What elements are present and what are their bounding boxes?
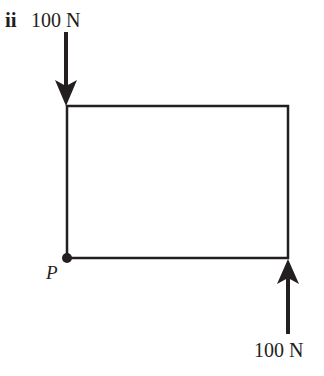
rectangle-body <box>67 106 288 258</box>
bottom-force-arrow-icon <box>277 259 299 334</box>
force-diagram <box>0 0 324 376</box>
point-p-dot <box>62 253 72 263</box>
top-force-arrow-icon <box>55 32 77 106</box>
